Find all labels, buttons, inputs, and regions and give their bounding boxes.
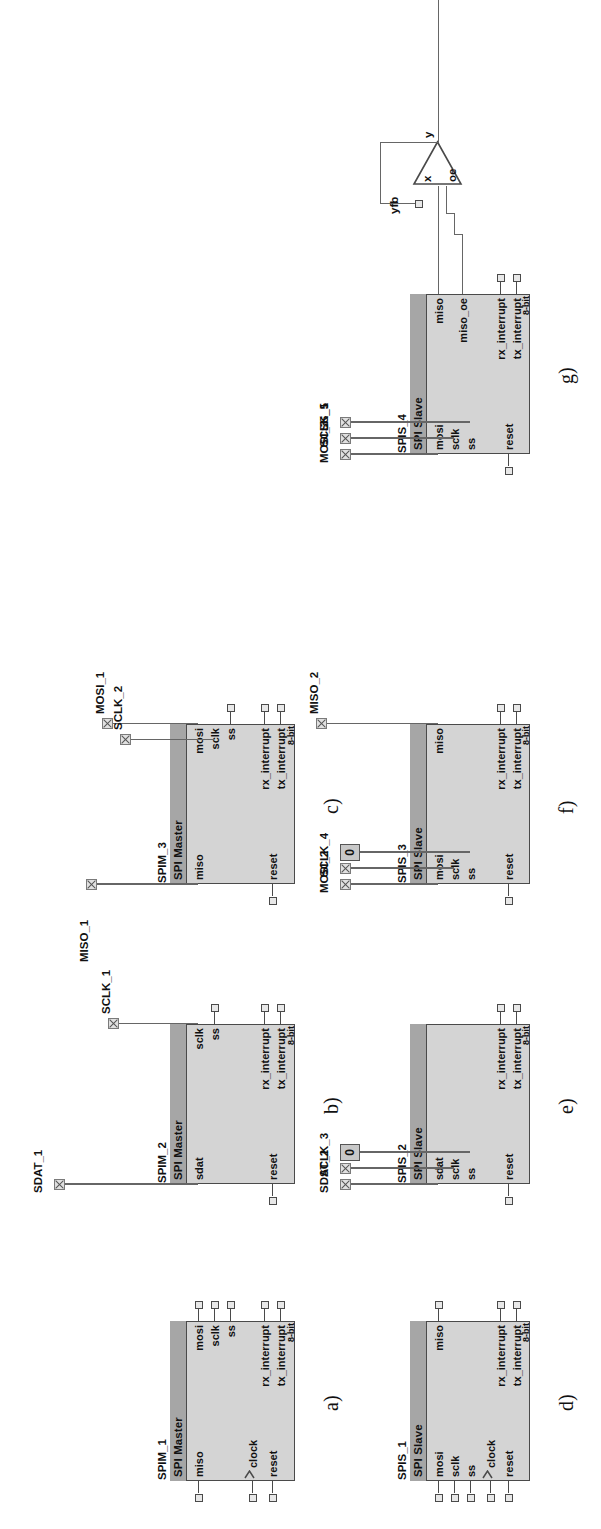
pin-label-mosi: mosi	[434, 1451, 445, 1477]
component-spis-1[interactable]: SPIS_1 SPI Slave 8-bit mosi sclk ss cloc…	[410, 1321, 530, 1481]
pin-stub-reset	[272, 1184, 273, 1196]
component-type-spi-master: SPI Master	[170, 724, 187, 884]
terminal-sclk[interactable]	[451, 1494, 459, 1502]
terminal-ss[interactable]	[227, 1301, 235, 1309]
pin-label-miso-oe: miso_oe	[458, 298, 469, 343]
port-sclk-5[interactable]	[340, 433, 351, 444]
component-spim-1[interactable]: SPIM_1 SPI Master 8-bit miso clock reset…	[170, 1321, 295, 1481]
terminal-sclk[interactable]	[211, 1301, 219, 1309]
terminal-tx-interrupt[interactable]	[277, 1004, 285, 1012]
port-ss-1[interactable]	[340, 417, 351, 428]
pin-label-tx-interrupt: tx_interrupt	[276, 728, 287, 789]
component-spis-4[interactable]: SPIS_4 SPI Slave 8-bit mosi sclk ss rese…	[410, 294, 530, 454]
pin-label-tx-interrupt: tx_interrupt	[276, 1028, 287, 1089]
terminal-rx-interrupt[interactable]	[497, 704, 505, 712]
pin-stub-reset	[508, 884, 509, 896]
pin-label-rx-interrupt: rx_interrupt	[260, 728, 271, 790]
component-spim-2[interactable]: SPIM_2 SPI Master 8-bit sdat reset sclk …	[170, 1024, 295, 1184]
terminal-tx-interrupt[interactable]	[277, 1301, 285, 1309]
clock-wedge-icon	[244, 1470, 255, 1479]
terminal-reset[interactable]	[505, 1494, 513, 1502]
terminal-reset[interactable]	[269, 1494, 277, 1502]
pin-stub-rx-interrupt	[500, 282, 501, 294]
terminal-reset[interactable]	[505, 897, 513, 905]
terminal-clock[interactable]	[487, 1494, 495, 1502]
pin-label-reset: reset	[268, 1154, 279, 1180]
terminal-ss[interactable]	[467, 1494, 475, 1502]
constant-zero-block[interactable]: 0	[340, 1144, 360, 1161]
constant-zero-block[interactable]: 0	[340, 844, 360, 861]
pin-label-sclk: sclk	[450, 429, 461, 450]
terminal-rx-interrupt[interactable]	[261, 1301, 269, 1309]
terminal-reset[interactable]	[505, 1197, 513, 1205]
terminal-mosi[interactable]	[435, 1494, 443, 1502]
terminal-miso[interactable]	[435, 1301, 443, 1309]
terminal-tx-interrupt[interactable]	[513, 274, 521, 282]
terminal-reset[interactable]	[269, 1197, 277, 1205]
pin-label-mosi: mosi	[194, 728, 205, 754]
pin-label-miso: miso	[194, 854, 205, 880]
port-sclk-4[interactable]	[340, 863, 351, 874]
pin-label-sclk: sclk	[194, 1028, 205, 1049]
pin-label-rx-interrupt: rx_interrupt	[496, 1028, 507, 1090]
terminal-ss[interactable]	[227, 704, 235, 712]
pin-label-tx-interrupt: tx_interrupt	[276, 1325, 287, 1386]
terminal-rx-interrupt[interactable]	[497, 274, 505, 282]
wire-mosi-3	[346, 453, 438, 454]
pin-label-reset: reset	[268, 1451, 279, 1477]
port-sclk-2[interactable]	[120, 735, 131, 746]
terminal-tx-interrupt[interactable]	[513, 704, 521, 712]
pin-stub-ss	[230, 712, 231, 724]
terminal-tx-interrupt[interactable]	[513, 1301, 521, 1309]
wire-miso-1	[92, 883, 198, 884]
pin-label-miso: miso	[194, 1451, 205, 1477]
terminal-reset[interactable]	[269, 897, 277, 905]
component-spis-3[interactable]: SPIS_3 SPI Slave 8-bit mosi sclk ss rese…	[410, 724, 530, 884]
component-type-spi-slave: SPI Slave	[410, 1024, 427, 1184]
wire-miso-to-buffer-x	[438, 186, 439, 294]
pin-stub-rx-interrupt	[500, 1309, 501, 1321]
port-sdat-1[interactable]	[54, 1179, 65, 1190]
net-label-mosi-1: MOSI_1	[94, 672, 106, 714]
wire-sclk-1	[114, 1023, 198, 1024]
component-spis-2[interactable]: SPIS_2 SPI Slave 8-bit sdat sclk ss rese…	[410, 1024, 530, 1184]
terminal-mosi[interactable]	[195, 1301, 203, 1309]
pin-stub-rx-interrupt	[500, 712, 501, 724]
terminal-rx-interrupt[interactable]	[497, 1004, 505, 1012]
bit-width-label: 8-bit	[286, 726, 296, 745]
terminal-tx-interrupt[interactable]	[513, 1004, 521, 1012]
port-miso-2[interactable]	[316, 719, 327, 730]
pin-label-mosi: mosi	[194, 1325, 205, 1351]
component-spim-3[interactable]: SPIM_3 SPI Master 8-bit miso reset mosi …	[170, 724, 295, 884]
terminal-tx-interrupt[interactable]	[277, 704, 285, 712]
pin-stub-rx-interrupt	[264, 1012, 265, 1024]
pin-label-miso: miso	[434, 728, 445, 754]
net-label-sclk-1: SCLK_1	[100, 970, 112, 1014]
terminal-clock[interactable]	[249, 1494, 257, 1502]
port-miso-1[interactable]	[86, 879, 97, 890]
port-sclk-3[interactable]	[340, 1163, 351, 1174]
terminal-rx-interrupt[interactable]	[497, 1301, 505, 1309]
terminal-reset[interactable]	[505, 467, 513, 475]
terminal-yfb[interactable]	[415, 200, 423, 208]
terminal-miso[interactable]	[195, 1494, 203, 1502]
terminal-rx-interrupt[interactable]	[261, 1004, 269, 1012]
clock-wedge-icon	[482, 1470, 493, 1479]
bit-width-label: 8-bit	[286, 1026, 296, 1045]
net-label-sclk-4: SCLK_4	[318, 833, 330, 877]
pin-stub-rx-interrupt	[500, 1012, 501, 1024]
instance-name-spim-1: SPIM_1	[156, 1439, 168, 1480]
pin-label-rx-interrupt: rx_interrupt	[496, 1325, 507, 1387]
terminal-rx-interrupt[interactable]	[261, 704, 269, 712]
pin-label-reset: reset	[504, 424, 515, 450]
instance-name-spim-2: SPIM_2	[156, 1142, 168, 1183]
port-mosi-3[interactable]	[340, 449, 351, 460]
port-sclk-1[interactable]	[108, 1019, 119, 1030]
pin-stub-rx-interrupt	[264, 712, 265, 724]
pin-stub-ss	[214, 1012, 215, 1024]
port-sdat-2[interactable]	[340, 1179, 351, 1190]
component-type-spi-slave: SPI Slave	[410, 1321, 427, 1481]
pin-label-tx-interrupt: tx_interrupt	[512, 298, 523, 359]
terminal-ss[interactable]	[211, 1004, 219, 1012]
port-mosi-2[interactable]	[340, 879, 351, 890]
